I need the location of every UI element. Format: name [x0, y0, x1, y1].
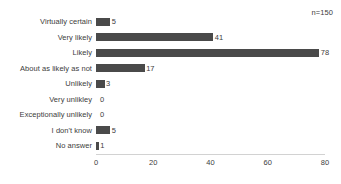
bar: [96, 80, 105, 88]
bar-zone: 3: [96, 76, 110, 92]
bar-value-label: 78: [321, 48, 329, 57]
category-label: Unlikely: [0, 79, 92, 88]
bar: [96, 18, 110, 26]
category-label: Exceptionally unlikely: [0, 110, 92, 119]
bar-zone: 17: [96, 61, 155, 77]
bar-zone: 1: [96, 138, 105, 154]
bar-row: About as likely as not17: [0, 61, 341, 77]
bar-chart: n=150 Virtually certain5Very likely41Lik…: [0, 0, 341, 184]
category-label: About as likely as not: [0, 64, 92, 73]
bar-value-label: 1: [100, 141, 104, 150]
bar-row: Very likely41: [0, 30, 341, 46]
bar-row: Likely78: [0, 45, 341, 61]
bar-value-label: 5: [112, 17, 116, 26]
bar-value-label: 0: [100, 110, 104, 119]
bar-zone: 0: [96, 107, 104, 123]
bar-zone: 41: [96, 30, 223, 46]
x-axis-tick: 20: [149, 158, 157, 168]
bar-row: I don't know5: [0, 123, 341, 139]
x-axis-tick: 0: [94, 158, 98, 168]
category-label: I don't know: [0, 126, 92, 135]
bar: [96, 64, 145, 72]
x-axis-tick: 60: [264, 158, 272, 168]
category-label: Likely: [0, 48, 92, 57]
category-label: No answer: [0, 141, 92, 150]
bar-value-label: 3: [106, 79, 110, 88]
bar-zone: 78: [96, 45, 329, 61]
x-axis-line: [96, 154, 325, 155]
category-label: Very likely: [0, 33, 92, 42]
bar-row: Virtually certain5: [0, 14, 341, 30]
bar-value-label: 5: [112, 126, 116, 135]
bar: [96, 33, 213, 41]
x-axis-tick: 80: [321, 158, 329, 168]
bar-row: Very unlikley0: [0, 92, 341, 108]
category-label: Virtually certain: [0, 17, 92, 26]
bar-zone: 0: [96, 92, 104, 108]
bar-row: Exceptionally unlikely0: [0, 107, 341, 123]
plot-area: Virtually certain5Very likely41Likely78A…: [0, 14, 341, 154]
category-label: Very unlikley: [0, 95, 92, 104]
bar: [96, 126, 110, 134]
x-axis-tick-labels: 020406080: [0, 158, 341, 172]
bar-value-label: 41: [215, 33, 223, 42]
bar-zone: 5: [96, 14, 116, 30]
bar: [96, 142, 99, 150]
bar: [96, 49, 319, 57]
bar-row: No answer1: [0, 138, 341, 154]
x-axis-tick: 40: [206, 158, 214, 168]
bar-value-label: 17: [146, 64, 154, 73]
bar-value-label: 0: [100, 95, 104, 104]
bar-row: Unlikely3: [0, 76, 341, 92]
bar-zone: 5: [96, 123, 116, 139]
